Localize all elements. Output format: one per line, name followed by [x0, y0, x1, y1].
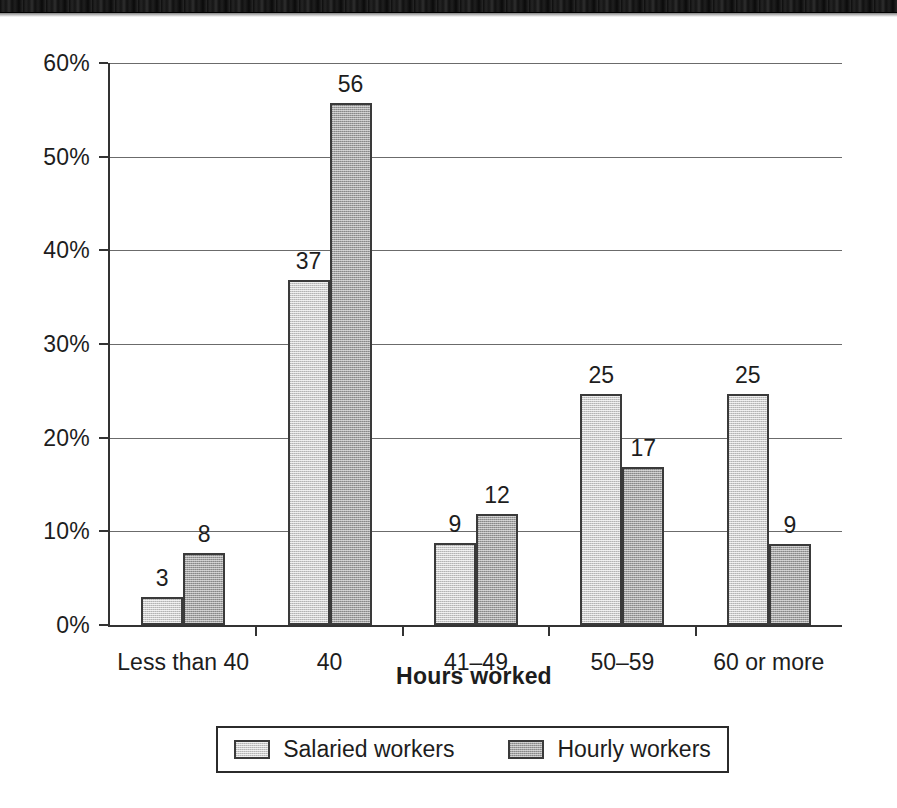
- bar-hourly[interactable]: 8: [183, 553, 225, 625]
- legend-label: Hourly workers: [557, 736, 710, 763]
- bar-value-label: 12: [484, 482, 510, 509]
- y-axis-label: 40%: [43, 237, 90, 264]
- bar-group-bars: 259: [696, 63, 842, 625]
- bar-group: 912: [403, 63, 549, 625]
- y-axis-label: 0%: [56, 612, 90, 639]
- legend-item-salaried[interactable]: Salaried workers: [234, 736, 454, 763]
- legend-label: Salaried workers: [283, 736, 454, 763]
- y-axis-tick: [99, 530, 108, 532]
- y-axis-label: 50%: [43, 143, 90, 170]
- x-axis-tick: [255, 625, 257, 636]
- bar-salaried[interactable]: 9: [434, 543, 476, 625]
- scanned-header-strip: [0, 0, 897, 13]
- y-axis-label: 30%: [43, 331, 90, 358]
- y-axis-tick: [99, 343, 108, 345]
- bar-salaried[interactable]: 3: [141, 597, 183, 625]
- bar-group-bars: 2517: [549, 63, 695, 625]
- bar-salaried[interactable]: 25: [727, 394, 769, 625]
- bar-hourly[interactable]: 17: [622, 467, 664, 625]
- legend-swatch-salaried: [234, 740, 270, 759]
- bar-group-bars: 3756: [256, 63, 402, 625]
- y-axis-tick: [99, 156, 108, 158]
- chart-legend: Salaried workersHourly workers: [216, 726, 729, 773]
- legend-swatch-hourly: [508, 740, 544, 759]
- bar-group: 259: [696, 63, 842, 625]
- x-axis-tick: [548, 625, 550, 636]
- bar-hourly[interactable]: 56: [330, 103, 372, 625]
- y-axis-tick: [99, 624, 108, 626]
- bar-salaried[interactable]: 25: [580, 394, 622, 625]
- bar-value-label: 17: [631, 435, 657, 462]
- bar-value-label: 25: [735, 362, 761, 389]
- x-axis-tick: [695, 625, 697, 636]
- bar-group-bars: 912: [403, 63, 549, 625]
- bar-chart-figure: 0%10%20%30%40%50%60%38Less than 40375640…: [0, 13, 897, 808]
- y-axis-tick: [99, 62, 108, 64]
- y-axis-label: 20%: [43, 424, 90, 451]
- bar-value-label: 25: [589, 362, 615, 389]
- bar-value-label: 56: [338, 71, 364, 98]
- bar-value-label: 3: [156, 565, 169, 592]
- y-axis-label: 10%: [43, 518, 90, 545]
- x-axis-title: Hours worked: [108, 663, 840, 690]
- bar-value-label: 37: [296, 248, 322, 275]
- bar-value-label: 9: [449, 511, 462, 538]
- bar-value-label: 9: [783, 512, 796, 539]
- y-axis-label: 60%: [43, 50, 90, 77]
- bar-salaried[interactable]: 37: [288, 280, 330, 625]
- bar-hourly[interactable]: 9: [769, 544, 811, 625]
- bar-hourly[interactable]: 12: [476, 514, 518, 625]
- plot-area: 0%10%20%30%40%50%60%38Less than 40375640…: [108, 63, 842, 627]
- bar-group: 3756: [256, 63, 402, 625]
- y-axis-tick: [99, 437, 108, 439]
- x-axis-tick: [402, 625, 404, 636]
- bar-value-label: 8: [198, 521, 211, 548]
- bar-group-bars: 38: [110, 63, 256, 625]
- legend-item-hourly[interactable]: Hourly workers: [508, 736, 710, 763]
- bar-group: 38: [110, 63, 256, 625]
- bar-group: 2517: [549, 63, 695, 625]
- y-axis-tick: [99, 249, 108, 251]
